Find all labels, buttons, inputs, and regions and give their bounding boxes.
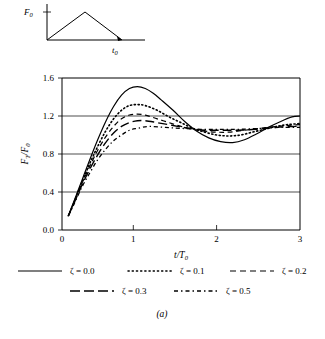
plot-area: 0.0 0.4 0.8 1.2 1.6 0 1 2 3 t/T0 FT/F0 <box>20 73 303 261</box>
y-tick-label-1: 0.4 <box>43 187 55 197</box>
curve-zeta-0.5 <box>68 126 300 215</box>
inset-pulse-diagram: F0 t0 <box>23 4 145 56</box>
y-tick-label-0: 0.0 <box>43 225 55 235</box>
curve-zeta-0 <box>68 87 300 216</box>
legend-label-zeta-0.0: ζ = 0.0 <box>70 266 95 276</box>
legend-label-zeta-0.3: ζ = 0.3 <box>122 286 147 296</box>
x-tick-label-3: 3 <box>298 234 303 244</box>
x-axis-title: t/T0 <box>174 250 189 261</box>
inset-pulse-path <box>47 12 122 40</box>
y-tick-label-4: 1.6 <box>43 73 55 83</box>
x-tick-label-2: 2 <box>214 234 219 244</box>
y-tick-label-3: 1.2 <box>43 111 54 121</box>
chart-figure: F0 t0 <box>0 0 325 339</box>
x-tick-label-0: 0 <box>60 234 65 244</box>
legend-label-zeta-0.2: ζ = 0.2 <box>282 266 307 276</box>
x-tick-label-1: 1 <box>131 234 136 244</box>
figure-container: F0 t0 <box>0 0 325 339</box>
legend-label-zeta-0.1: ζ = 0.1 <box>180 266 205 276</box>
y-tick-label-2: 0.8 <box>43 149 55 159</box>
inset-y-label: F0 <box>23 7 34 18</box>
figure-caption: (a) <box>156 309 167 320</box>
legend-label-zeta-0.5: ζ = 0.5 <box>226 286 251 296</box>
data-curves <box>68 87 300 216</box>
y-axis-title: FT/F0 <box>20 143 31 166</box>
legend: ζ = 0.0 ζ = 0.1 ζ = 0.2 ζ = 0.3 ζ = 0.5 <box>18 266 307 296</box>
inset-x-label: t0 <box>112 45 119 56</box>
